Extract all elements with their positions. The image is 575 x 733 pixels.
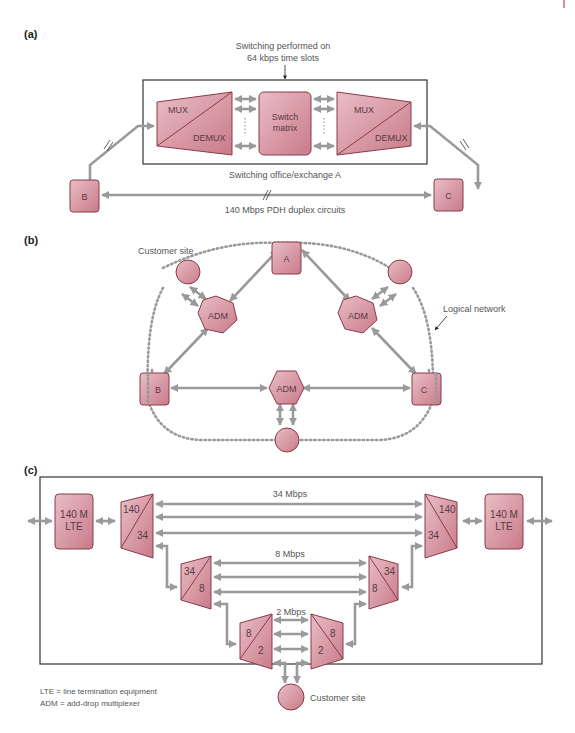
network-diagram: (a) Switching performed on 64 kbps time …: [0, 0, 575, 733]
svg-text:34: 34: [137, 530, 149, 541]
svg-text:34: 34: [184, 566, 196, 577]
mux-8-2-right: 8 2: [311, 614, 343, 669]
switching-annotation-line1: Switching performed on: [236, 41, 331, 51]
customer-site-left: [176, 260, 200, 284]
link-a-to-b: [90, 126, 154, 189]
switch-matrix-line2: matrix: [273, 123, 298, 133]
logical-network-arrow: [435, 316, 447, 330]
switch-matrix: Switch matrix: [259, 92, 311, 155]
link-caption: 140 Mbps PDH duplex circuits: [225, 205, 346, 215]
svg-text:2: 2: [318, 645, 324, 656]
adm-bottom: ADM: [269, 371, 304, 404]
right-demux-label: DEMUX: [375, 133, 408, 143]
rate-34-label: 34 Mbps: [273, 489, 308, 499]
svg-text:B: B: [155, 385, 161, 395]
switching-annotation-line2: 64 kbps time slots: [247, 53, 320, 63]
mux-140-34-left: 140 34: [121, 494, 153, 558]
lte-left: 140 M LTE: [55, 494, 93, 549]
left-mux-demux: MUX DEMUX: [157, 92, 232, 155]
svg-text:2: 2: [258, 645, 264, 656]
svg-text:ADM: ADM: [348, 311, 368, 321]
node-b: B: [70, 180, 99, 212]
svg-text:C: C: [445, 191, 452, 201]
right-mux-label: MUX: [354, 105, 374, 115]
adm-right: ADM: [338, 296, 377, 333]
switching-office-caption: Switching office/exchange A: [229, 170, 341, 180]
svg-text:140: 140: [123, 504, 140, 515]
svg-text:ADM: ADM: [208, 311, 228, 321]
svg-text:34: 34: [384, 566, 396, 577]
svg-text:LTE: LTE: [65, 521, 83, 532]
logical-network-label: Logical network: [443, 304, 506, 314]
customer-site-label-b: Customer site: [138, 246, 194, 256]
svg-text:8: 8: [372, 583, 378, 594]
svg-text:8: 8: [246, 628, 252, 639]
svg-text:ADM: ADM: [277, 384, 297, 394]
panel-a-label: (a): [24, 28, 38, 40]
mux-140-34-right: 140 34: [425, 494, 457, 558]
svg-text:140 M: 140 M: [60, 509, 88, 520]
customer-site-bottom: [275, 428, 299, 452]
mux-34-8-right: 34 8: [369, 556, 398, 609]
svg-text:A: A: [283, 254, 289, 264]
left-demux-label: DEMUX: [193, 133, 226, 143]
node-a-b: A: [272, 242, 301, 274]
svg-text:C: C: [421, 385, 428, 395]
mux-8-2-left: 8 2: [240, 614, 272, 669]
mux-34-8-left: 34 8: [181, 556, 211, 609]
svg-text:LTE: LTE: [495, 521, 513, 532]
panel-c-label: (c): [24, 464, 38, 476]
svg-text:B: B: [81, 192, 87, 202]
panel-b-label: (b): [24, 234, 38, 246]
customer-site-c: [278, 684, 304, 710]
customer-site-right: [388, 260, 412, 284]
legend-adm: ADM = add-drop multiplexer: [40, 699, 140, 708]
node-c: C: [434, 179, 463, 211]
node-b-b: B: [140, 373, 169, 405]
left-mux-label: MUX: [168, 105, 188, 115]
svg-text:140: 140: [439, 504, 456, 515]
legend-lte: LTE = line termination equipment: [40, 687, 158, 696]
panel-c: (c) 140 M LTE 140 34 140 M LTE: [24, 464, 552, 710]
svg-text:8: 8: [330, 628, 336, 639]
rate-2-label: 2 Mbps: [276, 607, 306, 617]
svg-text:34: 34: [428, 530, 440, 541]
rate-8-label: 8 Mbps: [275, 549, 305, 559]
page-edge-mark: [563, 0, 565, 8]
svg-text:140 M: 140 M: [490, 509, 518, 520]
customer-site-label-c: Customer site: [310, 693, 366, 703]
switch-matrix-line1: Switch: [272, 112, 299, 122]
panel-a: (a) Switching performed on 64 kbps time …: [24, 28, 478, 215]
lte-right: 140 M LTE: [485, 494, 523, 549]
svg-text:8: 8: [199, 583, 205, 594]
right-mux-demux: MUX DEMUX: [337, 92, 411, 155]
panel-b: (b) Customer site A ADM: [24, 234, 506, 452]
